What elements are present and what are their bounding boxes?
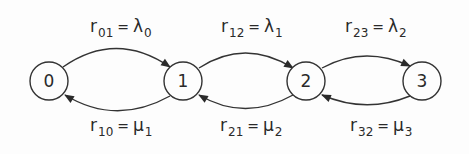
edge-label-23: r23=λ2: [345, 16, 407, 43]
edge-label-32: r32=μ3: [350, 115, 412, 142]
edge-label-21: r21=μ2: [220, 115, 282, 142]
edge-2-3: [322, 56, 410, 68]
node-label-1: 1: [163, 71, 203, 91]
node-label-0: 0: [29, 71, 69, 91]
node-label-3: 3: [402, 71, 442, 91]
edge-1-0: [65, 95, 170, 111]
edge-label-01: r01=λ0: [90, 16, 152, 43]
edge-1-2: [199, 53, 293, 68]
edge-2-1: [199, 95, 293, 109]
node-label-2: 2: [286, 71, 326, 91]
edge-label-12: r12=λ1: [221, 16, 283, 43]
edge-0-1: [63, 49, 170, 68]
edge-3-2: [322, 95, 410, 105]
edge-label-10: r10=μ1: [90, 115, 152, 142]
